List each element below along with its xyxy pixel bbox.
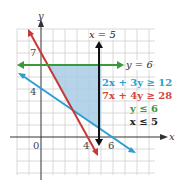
origin-label: 0 [33, 141, 39, 151]
green-arrow-icon [17, 61, 24, 69]
x-eq-5-label: x = 5 [89, 30, 116, 40]
legend-item-black: x ≤ 5 [102, 115, 158, 128]
y-tick-4: 4 [30, 87, 36, 97]
y-eq-6-label: y = 6 [126, 60, 153, 70]
inequality-legend: 2x + 3y ≥ 12 7x + 4y ≥ 28 y ≤ 6 x ≤ 5 [102, 76, 158, 128]
x-tick-6: 6 [108, 141, 114, 151]
black-arrow-icon [95, 139, 103, 146]
y-axis-label: y [38, 11, 44, 21]
legend-item-red: 7x + 4y ≥ 28 [102, 89, 158, 102]
green-arrow-icon [117, 61, 124, 69]
x-tick-4: 4 [83, 141, 89, 151]
x-axis-arrow-icon [160, 134, 168, 140]
feasible-region [48, 65, 101, 129]
legend-item-blue: 2x + 3y ≥ 12 [102, 76, 158, 89]
x-axis-label: x [169, 132, 175, 142]
legend-item-green: y ≤ 6 [102, 102, 158, 115]
y-tick-7: 7 [30, 48, 36, 58]
black-arrow-icon [95, 41, 103, 48]
